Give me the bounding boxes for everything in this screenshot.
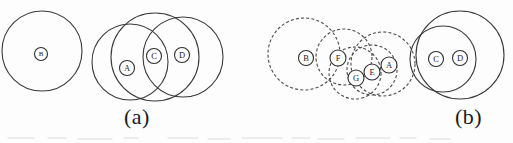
node-c-label: C xyxy=(151,51,157,61)
node-f-label: F xyxy=(336,53,341,63)
figure-container: B A C D xyxy=(0,0,513,143)
node-e-label: E xyxy=(369,67,374,77)
figure-canvas: B A C D xyxy=(0,0,513,143)
node-a: A xyxy=(120,61,135,76)
node-e: E xyxy=(364,64,380,80)
panel-a-caption: (a) xyxy=(124,104,150,130)
node-b: B xyxy=(299,51,314,66)
node-f: F xyxy=(330,50,346,66)
node-d: D xyxy=(175,48,190,63)
node-c: C xyxy=(429,52,444,67)
panel-b-caption: (b) xyxy=(455,104,482,130)
node-a: A xyxy=(381,57,397,73)
node-d-label: D xyxy=(457,53,463,63)
node-g: G xyxy=(348,70,364,86)
node-b: B xyxy=(35,48,48,61)
node-b-label: B xyxy=(303,53,309,63)
node-d: D xyxy=(453,51,468,66)
node-b-label: B xyxy=(39,50,44,58)
node-c-label: C xyxy=(433,54,439,64)
node-c: C xyxy=(147,49,162,64)
node-a-label: A xyxy=(124,63,131,73)
panel-b-nodes: B F G E A C D xyxy=(299,50,468,86)
node-a-label: A xyxy=(386,60,393,70)
node-d-label: D xyxy=(179,50,185,60)
page-scan-artifacts xyxy=(8,138,450,139)
node-g-label: G xyxy=(353,73,359,83)
